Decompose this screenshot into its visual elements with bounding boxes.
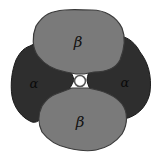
protein-complex-diagram: β α α β bbox=[0, 0, 161, 158]
diagram-canvas bbox=[0, 0, 161, 158]
label-alpha-left: α bbox=[30, 77, 39, 90]
label-beta-top: β bbox=[74, 35, 83, 50]
label-alpha-right: α bbox=[121, 76, 130, 89]
label-beta-bottom: β bbox=[76, 115, 85, 130]
central-pore-ring bbox=[75, 76, 86, 87]
